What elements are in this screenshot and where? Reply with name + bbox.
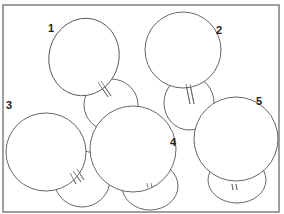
balloon-label: 3	[6, 99, 12, 111]
balloon-label: 2	[216, 24, 222, 36]
balloon-4: 4	[90, 106, 177, 192]
balloon-2: 2	[145, 12, 222, 88]
balloon-4-large-circle	[90, 106, 176, 192]
balloon-diagram: 12345	[0, 0, 284, 214]
balloon-2-large-circle	[145, 12, 221, 88]
balloon-label: 4	[170, 136, 177, 148]
balloon-label: 5	[256, 95, 262, 107]
balloon-5-large-circle	[194, 97, 278, 181]
diagram-canvas: 12345	[0, 0, 284, 214]
balloon-3-large-circle	[6, 113, 86, 191]
balloon-label: 1	[48, 22, 54, 34]
